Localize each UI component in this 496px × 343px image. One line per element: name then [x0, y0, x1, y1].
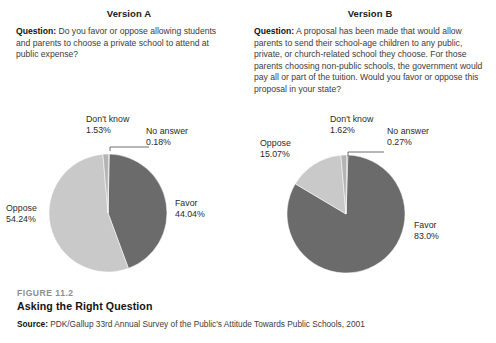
- version-b-title: Version B: [254, 8, 486, 20]
- figure-source-label: Source:: [17, 319, 48, 329]
- pie-a-label-favor-pct: 44.04%: [175, 209, 205, 220]
- pie-a-label-favor: Favor 44.04%: [175, 198, 205, 220]
- pie-a-label-oppose-name: Oppose: [6, 203, 37, 213]
- pie-b-label-oppose: Oppose 15.07%: [260, 138, 291, 160]
- pie-a-label-dont-know: Don't know 1.53%: [86, 114, 129, 136]
- version-b-question-label: Question:: [254, 26, 294, 36]
- figure-title: Asking the Right Question: [17, 300, 477, 312]
- version-b-question: Question: A proposal has been made that …: [254, 26, 486, 96]
- pie-a-label-no-answer-name: No answer: [146, 126, 188, 136]
- version-a-panel: Version A Question: Do you favor or oppo…: [16, 8, 220, 61]
- pie-a-leader-line: [110, 147, 149, 151]
- pie-b-label-favor-name: Favor: [414, 220, 437, 230]
- version-b-panel: Version B Question: A proposal has been …: [254, 8, 486, 96]
- pie-b-label-favor: Favor 83.0%: [414, 220, 439, 242]
- pie-b-label-no-answer-name: No answer: [387, 126, 429, 136]
- pie-b-label-oppose-name: Oppose: [260, 138, 291, 148]
- pie-b-label-dont-know-name: Don't know: [330, 114, 373, 124]
- figure-source-text: PDK/Gallup 33rd Annual Survey of the Pub…: [48, 319, 365, 329]
- pie-b-label-oppose-pct: 15.07%: [260, 149, 291, 160]
- charts-area: Don't know 1.53% No answer 0.18% Favor 4…: [0, 110, 496, 280]
- version-a-title: Version A: [16, 8, 220, 20]
- pie-a-label-oppose: Oppose 54.24%: [6, 203, 37, 225]
- pie-a-label-no-answer-pct: 0.18%: [146, 137, 188, 148]
- pie-a-label-favor-name: Favor: [175, 198, 198, 208]
- pie-b-label-no-answer: No answer 0.27%: [387, 126, 429, 148]
- pie-b-slices: [287, 155, 405, 273]
- pie-a-label-dont-know-name: Don't know: [86, 114, 129, 124]
- pie-a-slices: [49, 154, 167, 272]
- pie-b-label-dont-know-pct: 1.62%: [330, 125, 373, 136]
- pie-a-label-dont-know-pct: 1.53%: [86, 125, 129, 136]
- figure-container: Version A Question: Do you favor or oppo…: [0, 0, 496, 343]
- pie-b-label-favor-pct: 83.0%: [414, 231, 439, 242]
- pie-b-label-no-answer-pct: 0.27%: [387, 137, 429, 148]
- figure-source: Source: PDK/Gallup 33rd Annual Survey of…: [17, 319, 477, 330]
- figure-number: FIGURE 11.2: [17, 288, 477, 298]
- pie-a-label-no-answer: No answer 0.18%: [146, 126, 188, 148]
- version-a-question-label: Question:: [16, 26, 56, 36]
- figure-caption: FIGURE 11.2 Asking the Right Question So…: [17, 288, 477, 330]
- pie-a-label-oppose-pct: 54.24%: [6, 214, 37, 225]
- version-a-question: Question: Do you favor or oppose allowin…: [16, 26, 220, 61]
- version-b-question-text: A proposal has been made that would allo…: [254, 26, 482, 94]
- pie-b-label-dont-know: Don't know 1.62%: [330, 114, 373, 136]
